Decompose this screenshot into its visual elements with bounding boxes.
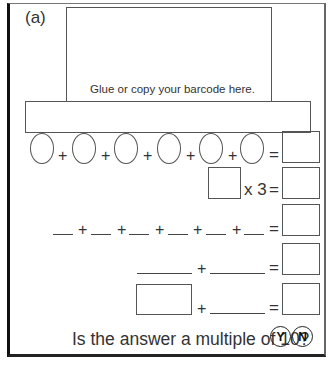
plus-sign: + xyxy=(78,222,87,238)
plus-sign: + xyxy=(197,261,206,277)
answer-box-1[interactable] xyxy=(282,131,320,163)
blank-line-long-2[interactable] xyxy=(210,273,265,274)
yes-label: Y xyxy=(276,330,284,344)
blank-line-5[interactable] xyxy=(206,234,226,235)
equals-sign: = xyxy=(269,299,279,316)
barcode-instruction: Glue or copy your barcode here. xyxy=(90,83,255,95)
blank-line-3[interactable] xyxy=(129,234,149,235)
digit-circle-6[interactable] xyxy=(240,133,264,164)
equals-sign: = xyxy=(269,259,279,276)
equals-sign: = xyxy=(269,181,279,198)
equals-sign: = xyxy=(269,146,279,163)
plus-sign: + xyxy=(117,222,126,238)
plus-sign: + xyxy=(228,148,237,164)
plus-sign: + xyxy=(101,148,110,164)
yes-circle-option[interactable]: Y xyxy=(270,326,291,347)
no-circle-option[interactable]: N xyxy=(292,326,313,347)
blank-line-6[interactable] xyxy=(244,234,264,235)
plus-sign: + xyxy=(232,222,241,238)
plus-sign: + xyxy=(197,301,206,317)
plus-sign: + xyxy=(186,148,195,164)
answer-box-3[interactable] xyxy=(282,204,320,236)
no-label: N xyxy=(298,330,307,344)
plus-sign: + xyxy=(58,148,67,164)
blank-line-4[interactable] xyxy=(168,234,188,235)
answer-box-4[interactable] xyxy=(282,243,320,275)
part-label: (a) xyxy=(25,8,46,28)
digit-circle-5[interactable] xyxy=(199,133,223,164)
plus-sign: + xyxy=(155,222,164,238)
answer-box-5[interactable] xyxy=(282,283,320,315)
input-box-multiplicand[interactable] xyxy=(208,167,241,199)
plus-sign: + xyxy=(143,148,152,164)
digit-circle-1[interactable] xyxy=(30,133,54,164)
name-entry-bar[interactable] xyxy=(25,101,311,133)
plus-sign: + xyxy=(193,222,202,238)
digit-circle-4[interactable] xyxy=(157,133,181,164)
blank-line-2[interactable] xyxy=(91,234,111,235)
blank-line-1[interactable] xyxy=(53,234,73,235)
blank-line-long-3[interactable] xyxy=(210,313,265,314)
equals-sign: = xyxy=(269,220,279,237)
digit-circle-3[interactable] xyxy=(114,133,138,164)
blank-line-long-1[interactable] xyxy=(137,273,192,274)
answer-box-2[interactable] xyxy=(282,167,320,199)
digit-circle-2[interactable] xyxy=(72,133,96,164)
input-box-addend[interactable] xyxy=(136,284,192,315)
times-three: x 3 xyxy=(244,181,267,198)
